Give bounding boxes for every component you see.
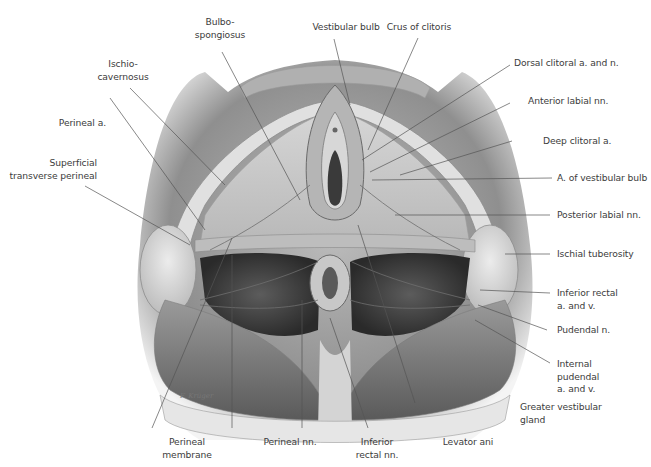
label-perineal-a: Perineal a. — [59, 117, 106, 130]
label-line: rectal nn. — [356, 449, 399, 462]
label-line: a. and v. — [557, 300, 618, 313]
label-ischiocavernosus: Ischio- cavernosus — [97, 58, 148, 83]
label-line: a. and v. — [557, 383, 599, 396]
label-line: cavernosus — [97, 71, 148, 84]
perineum-illustration: F. Krüger Bulbo- spongiosus Vestibular b… — [0, 0, 651, 467]
label-crus-of-clitoris: Crus of clitoris — [387, 21, 451, 34]
label-line: Greater vestibular — [520, 401, 602, 414]
label-deep-clitoral: Deep clitoral a. — [543, 135, 611, 148]
label-line: transverse perineal — [10, 170, 97, 183]
label-a-vestibular-bulb: A. of vestibular bulb — [557, 172, 647, 185]
label-line: Perineal — [162, 436, 211, 449]
urethral-opening — [333, 128, 338, 133]
label-superficial-transverse-perineal: Superficial transverse perineal — [10, 157, 97, 182]
label-posterior-labial: Posterior labial nn. — [557, 209, 641, 222]
anal-opening — [322, 267, 338, 299]
label-inferior-rectal-nn: Inferior rectal nn. — [356, 436, 399, 461]
label-inferior-rectal-av: Inferior rectal a. and v. — [557, 287, 618, 312]
label-internal-pudendal: Internal pudendal a. and v. — [557, 358, 599, 396]
label-perineal-membrane: Perineal membrane — [162, 436, 211, 461]
label-line: gland — [520, 414, 602, 427]
artist-signature: F. Krüger — [179, 392, 214, 400]
label-line: Superficial — [10, 157, 97, 170]
label-dorsal-clitoral: Dorsal clitoral a. and n. — [514, 57, 619, 70]
label-line: membrane — [162, 449, 211, 462]
label-line: Inferior rectal — [557, 287, 618, 300]
label-vestibular-bulb: Vestibular bulb — [312, 21, 379, 34]
label-levator-ani: Levator ani — [443, 436, 494, 449]
label-line: Ischio- — [97, 58, 148, 71]
label-perineal-nn: Perineal nn. — [263, 436, 316, 449]
label-pudendal-n: Pudendal n. — [557, 324, 610, 337]
label-ischial-tuberosity: Ischial tuberosity — [557, 248, 634, 261]
label-line: Inferior — [356, 436, 399, 449]
label-greater-vestibular-gland: Greater vestibular gland — [520, 401, 602, 426]
label-line: Internal — [557, 358, 599, 371]
label-line: Bulbo- — [195, 16, 245, 29]
right-ischial-tuberosity — [462, 225, 518, 315]
label-anterior-labial: Anterior labial nn. — [528, 95, 608, 108]
label-bulbospongiosus: Bulbo- spongiosus — [195, 16, 245, 41]
label-line: pudendal — [557, 371, 599, 384]
label-line: spongiosus — [195, 29, 245, 42]
